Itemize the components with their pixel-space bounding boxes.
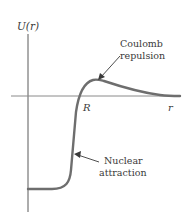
coulomb-arrow-line bbox=[101, 56, 120, 77]
coulomb-label-line1: Coulomb bbox=[120, 38, 163, 49]
nuclear-label-line1: Nuclear bbox=[104, 155, 143, 166]
x-axis-label: r bbox=[168, 102, 174, 113]
nuclear-arrow-line bbox=[78, 155, 99, 162]
potential-diagram: U(r) r R Coulomb repulsion Nuclear attra… bbox=[0, 0, 190, 221]
nuclear-arrow-head bbox=[74, 151, 81, 158]
r-marker-label: R bbox=[82, 102, 91, 113]
nuclear-label-line2: attraction bbox=[99, 167, 147, 178]
coulomb-label-line2: repulsion bbox=[120, 50, 165, 61]
y-axis-label: U(r) bbox=[17, 20, 39, 32]
